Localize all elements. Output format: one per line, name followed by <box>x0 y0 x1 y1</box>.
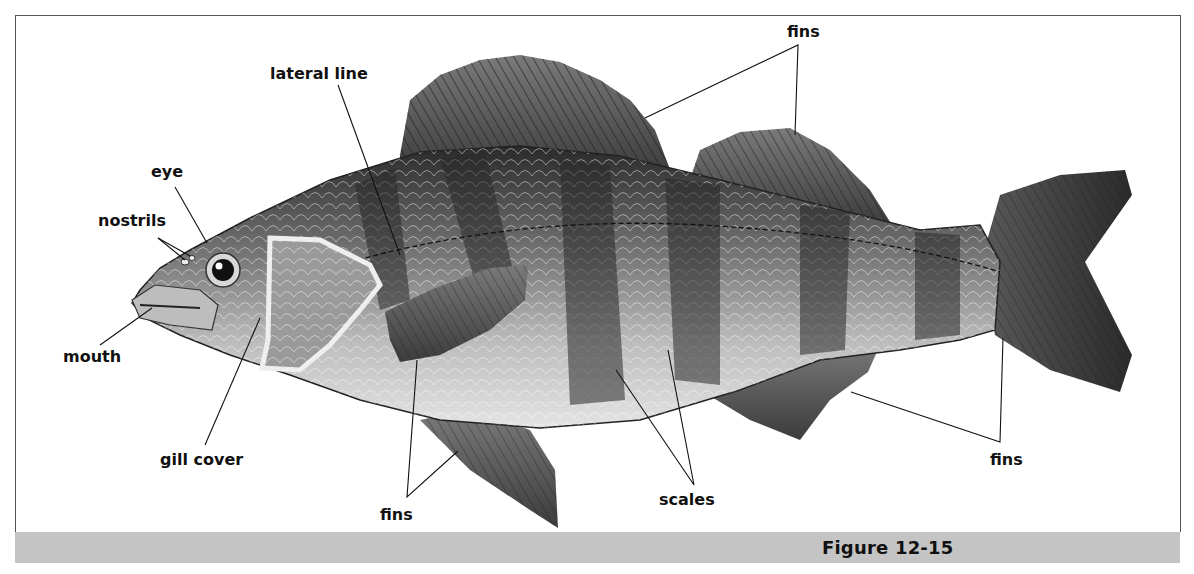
label-gill-cover: gill cover <box>160 450 243 469</box>
label-fins-top: fins <box>787 22 820 41</box>
fish-illustration <box>0 0 1194 574</box>
label-fins-bottom: fins <box>380 505 413 524</box>
label-scales: scales <box>659 490 715 509</box>
label-lateral-line: lateral line <box>270 64 368 83</box>
label-nostrils: nostrils <box>98 211 166 230</box>
caption-bar <box>15 532 1180 563</box>
fish-eye <box>206 253 240 287</box>
label-fins-right: fins <box>990 450 1023 469</box>
label-eye: eye <box>151 162 183 181</box>
figure-caption: Figure 12-15 <box>822 537 954 558</box>
label-mouth: mouth <box>63 347 121 366</box>
